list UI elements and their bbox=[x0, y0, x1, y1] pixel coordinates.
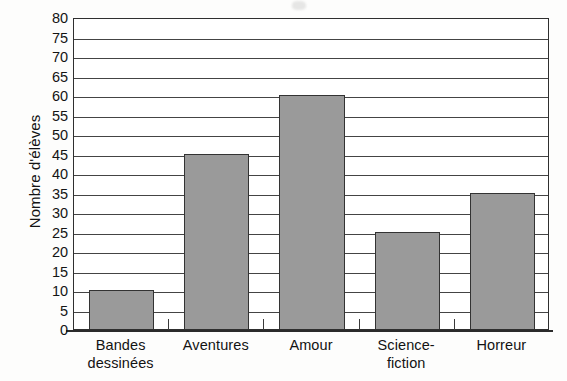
y-axis-tick-label: 10 bbox=[26, 284, 68, 299]
y-axis-tick-label: 15 bbox=[26, 264, 68, 279]
x-axis-line bbox=[66, 330, 553, 332]
y-axis-tick-label: 50 bbox=[26, 128, 68, 143]
x-axis-category-label: Aventures bbox=[168, 337, 263, 355]
y-axis-tick-label: 40 bbox=[26, 167, 68, 182]
x-axis-category-label: Amour bbox=[263, 337, 358, 355]
x-axis-category-labels: BandesdessinéesAventuresAmourScience-fic… bbox=[73, 337, 549, 381]
x-axis-tick bbox=[454, 319, 455, 330]
y-axis-tick-label: 45 bbox=[26, 147, 68, 162]
y-axis-tick-label: 5 bbox=[26, 303, 68, 318]
y-axis-tick-label: 80 bbox=[26, 11, 68, 26]
y-axis-tick-label: 65 bbox=[26, 69, 68, 84]
bar-chart: Nombre d'élèves 510152025303540455055606… bbox=[0, 0, 567, 381]
y-axis-tick-label: 30 bbox=[26, 206, 68, 221]
x-axis-category-label-line: Horreur bbox=[454, 337, 549, 355]
y-axis-tick-label: 55 bbox=[26, 108, 68, 123]
bar bbox=[375, 232, 440, 330]
y-axis-tick-label: 60 bbox=[26, 89, 68, 104]
x-axis-tick-marks bbox=[73, 318, 549, 330]
y-axis-tick-label: 25 bbox=[26, 225, 68, 240]
x-axis-category-label-line: Amour bbox=[263, 337, 358, 355]
y-axis-tick-labels: 5101520253035404550556065707580 bbox=[26, 18, 68, 330]
x-axis-category-label-line: Aventures bbox=[168, 337, 263, 355]
x-axis-tick bbox=[168, 319, 169, 330]
x-axis-category-label-line: Science- bbox=[359, 337, 454, 355]
bars-layer bbox=[74, 19, 548, 329]
x-axis-tick bbox=[263, 319, 264, 330]
x-axis-category-label: Science-fiction bbox=[359, 337, 454, 372]
x-axis-category-label-line: Bandes bbox=[73, 337, 168, 355]
y-axis-tick-label: 35 bbox=[26, 186, 68, 201]
y-axis-tick-label: 20 bbox=[26, 245, 68, 260]
x-axis-category-label: Bandesdessinées bbox=[73, 337, 168, 372]
scan-artifact bbox=[292, 1, 306, 10]
bar bbox=[470, 193, 535, 330]
plot-area bbox=[73, 18, 549, 330]
bar bbox=[184, 154, 249, 330]
x-axis-category-label-line: dessinées bbox=[73, 355, 168, 373]
x-axis-category-label-line: fiction bbox=[359, 355, 454, 373]
y-axis-zero-label: 0 bbox=[26, 323, 68, 338]
x-axis-category-label: Horreur bbox=[454, 337, 549, 355]
y-axis-tick-label: 75 bbox=[26, 30, 68, 45]
x-axis-tick bbox=[359, 319, 360, 330]
y-axis-tick-label: 70 bbox=[26, 50, 68, 65]
bar bbox=[279, 95, 344, 329]
